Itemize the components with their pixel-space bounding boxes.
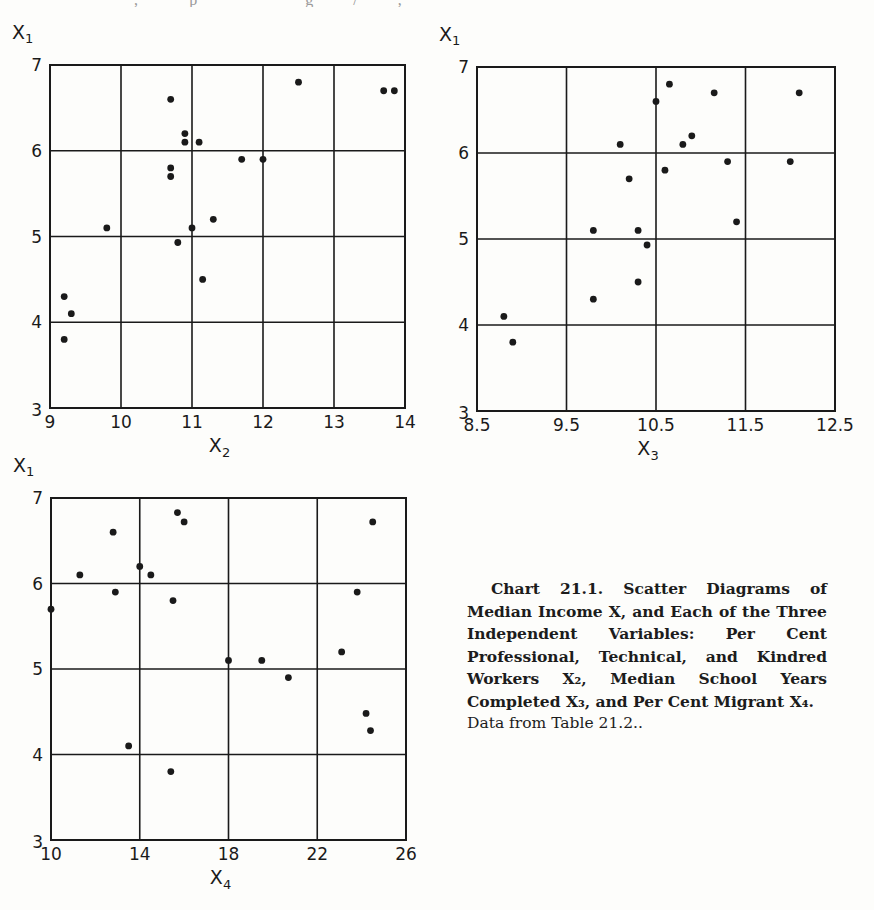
data-point xyxy=(354,589,361,596)
data-point xyxy=(174,509,181,516)
data-point xyxy=(733,218,740,225)
data-point xyxy=(644,242,651,249)
y-tick-label: 7 xyxy=(458,57,469,77)
data-point xyxy=(679,141,686,148)
caption-title: Chart 21.1. Scatter Diagrams of Median I… xyxy=(467,579,827,711)
data-point xyxy=(76,572,83,579)
data-point xyxy=(796,89,803,96)
data-point xyxy=(653,98,660,105)
data-point xyxy=(626,175,633,182)
scatter-plot-svg: 345671014182226X1X4 xyxy=(0,0,440,910)
data-point xyxy=(635,279,642,286)
x-axis-label: X4 xyxy=(210,866,231,892)
data-points xyxy=(48,509,377,775)
scatter-x1-vs-x4: 345671014182226X1X4 xyxy=(0,0,440,910)
x-tick-label: 18 xyxy=(218,844,240,864)
data-point xyxy=(500,313,507,320)
caption-source: Data from Table 21.2.. xyxy=(467,713,827,735)
y-tick-label: 4 xyxy=(458,315,469,335)
data-points xyxy=(500,81,802,346)
x-tick-label: 22 xyxy=(306,844,328,864)
data-point xyxy=(258,657,265,664)
data-point xyxy=(136,563,143,570)
data-point xyxy=(181,519,188,526)
y-tick-label: 6 xyxy=(32,574,43,594)
grid-lines xyxy=(51,498,406,840)
y-axis-label: X1 xyxy=(13,454,34,479)
data-point xyxy=(367,727,374,734)
y-tick-label: 4 xyxy=(32,745,43,765)
data-point xyxy=(167,768,174,775)
data-point xyxy=(711,89,718,96)
y-axis-label: X1 xyxy=(439,23,460,48)
data-point xyxy=(285,674,292,681)
data-point xyxy=(590,227,597,234)
x-tick-label: 8.5 xyxy=(463,415,490,435)
data-point xyxy=(509,339,516,346)
x-tick-label: 10 xyxy=(40,844,62,864)
y-tick-label: 5 xyxy=(458,229,469,249)
data-point xyxy=(125,743,132,750)
y-tick-label: 5 xyxy=(32,659,43,679)
figure-caption: Chart 21.1. Scatter Diagrams of Median I… xyxy=(467,578,827,735)
data-point xyxy=(787,158,794,165)
x-axis-label: X3 xyxy=(637,437,658,463)
x-tick-label: 14 xyxy=(129,844,151,864)
data-point xyxy=(666,81,673,88)
data-point xyxy=(635,227,642,234)
x-tick-label: 26 xyxy=(395,844,417,864)
data-point xyxy=(369,519,376,526)
x-tick-label: 11.5 xyxy=(727,415,765,435)
data-point xyxy=(147,572,154,579)
data-point xyxy=(590,296,597,303)
data-point xyxy=(112,589,119,596)
data-point xyxy=(225,657,232,664)
grid-lines xyxy=(477,67,835,411)
data-point xyxy=(688,132,695,139)
data-point xyxy=(110,529,117,536)
data-point xyxy=(338,649,345,656)
x-tick-label: 9.5 xyxy=(553,415,580,435)
x-tick-label: 12.5 xyxy=(816,415,854,435)
data-point xyxy=(170,597,177,604)
data-point xyxy=(363,710,370,717)
data-point xyxy=(48,606,55,613)
y-tick-label: 6 xyxy=(458,143,469,163)
data-point xyxy=(617,141,624,148)
x-tick-label: 10.5 xyxy=(637,415,675,435)
data-point xyxy=(724,158,731,165)
data-point xyxy=(662,167,669,174)
y-tick-label: 7 xyxy=(32,488,43,508)
